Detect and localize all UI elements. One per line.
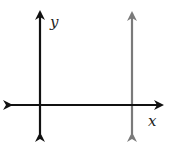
- coordinate-diagram: y x: [0, 0, 174, 154]
- y-axis-label: y: [49, 13, 59, 31]
- x-axis-label: x: [148, 112, 157, 130]
